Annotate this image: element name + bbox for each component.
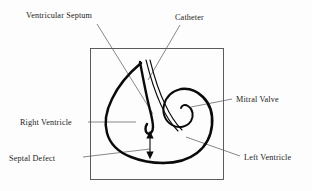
leader-septal-defect — [83, 149, 150, 157]
leader-mitral-valve — [191, 99, 232, 107]
leader-left-ventricle — [186, 137, 240, 156]
diagram-frame — [91, 49, 224, 180]
septal-defect-arrowhead-down — [147, 152, 153, 158]
label-left-ventricle: Left Ventricle — [244, 153, 291, 162]
figure-canvas: Ventricular Septum Catheter Mitral Valve… — [0, 0, 312, 191]
mitral-valve-leaflet — [163, 89, 192, 127]
label-mitral-valve: Mitral Valve — [236, 95, 279, 104]
label-septal-defect: Septal Defect — [9, 154, 56, 163]
ventricular-septum-outline — [140, 62, 153, 134]
leader-ventricular-septum — [97, 24, 153, 114]
label-catheter: Catheter — [175, 13, 204, 22]
left-ventricle-wall — [163, 89, 212, 163]
catheter-wall-outer — [146, 60, 178, 131]
right-ventricle-free-wall — [106, 63, 163, 163]
label-right-ventricle: Right Ventricle — [20, 118, 72, 127]
heart-diagram: Ventricular Septum Catheter Mitral Valve… — [0, 0, 312, 191]
label-ventricular-septum: Ventricular Septum — [26, 11, 93, 20]
